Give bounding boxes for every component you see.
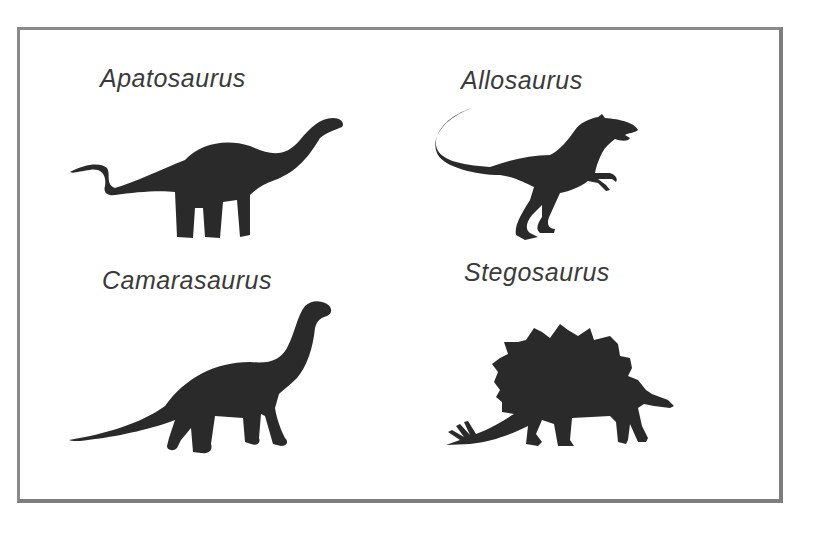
label-allosaurus: Allosaurus: [461, 66, 583, 95]
apatosaurus-icon: [65, 110, 350, 245]
allosaurus-icon: [430, 105, 645, 245]
label-stegosaurus: Stegosaurus: [464, 258, 610, 287]
stegosaurus-icon: [442, 322, 677, 452]
camarasaurus-icon: [65, 298, 340, 463]
label-camarasaurus: Camarasaurus: [102, 266, 272, 295]
label-apatosaurus: Apatosaurus: [100, 64, 246, 93]
